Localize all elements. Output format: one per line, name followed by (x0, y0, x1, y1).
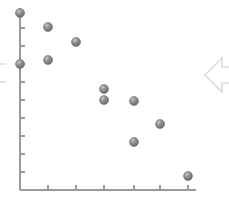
plot-ticks (20, 28, 188, 190)
data-point (130, 97, 139, 106)
clipped-bracket-icon[interactable] (0, 64, 6, 82)
data-point (16, 9, 25, 18)
scatter-plot-screenshot (0, 0, 229, 205)
left-pointing-arrow-icon[interactable] (205, 58, 229, 92)
data-point (100, 96, 109, 105)
data-point (16, 60, 25, 69)
data-point (184, 172, 193, 181)
data-point-layer (16, 9, 193, 181)
clipped-bracket-path (0, 64, 6, 82)
data-point (72, 38, 81, 47)
data-point (100, 85, 109, 94)
data-point (44, 56, 53, 65)
data-point (130, 138, 139, 147)
data-point (156, 120, 165, 129)
data-point (44, 23, 53, 32)
left-pointing-arrow-path (205, 58, 229, 92)
scatter-plot-figure (0, 0, 229, 205)
